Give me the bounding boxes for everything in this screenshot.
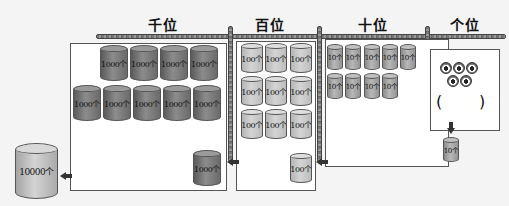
cylinder-hundred: 100个 bbox=[290, 76, 312, 106]
cylinder-ten: 10个 bbox=[327, 73, 343, 99]
ones-ball bbox=[453, 62, 465, 74]
ones-ball bbox=[440, 62, 452, 74]
cylinder-hundred: 100个 bbox=[265, 43, 287, 73]
vertical-rod-hundreds-tens bbox=[317, 26, 322, 162]
cylinder-ten: 10个 bbox=[400, 44, 416, 70]
arrow-left-icon bbox=[316, 158, 322, 166]
label-tens: 十位 bbox=[358, 14, 388, 34]
label-ones: 个位 bbox=[450, 14, 480, 34]
blank-open-paren: ( bbox=[436, 92, 442, 111]
cylinder-hundred: 100个 bbox=[265, 76, 287, 106]
arrow-left-icon bbox=[227, 158, 233, 166]
ones-ball bbox=[466, 62, 478, 74]
cylinder-hundred: 100个 bbox=[290, 109, 312, 139]
cylinder-thousand: 1000个 bbox=[190, 45, 218, 81]
label-hundreds: 百位 bbox=[255, 14, 285, 34]
cylinder-ten: 10个 bbox=[382, 44, 398, 70]
cylinder-ten: 10个 bbox=[327, 44, 343, 70]
vertical-rod-thousands-hundreds bbox=[228, 26, 233, 162]
cylinder-thousand: 1000个 bbox=[100, 45, 128, 81]
ones-ball bbox=[460, 75, 472, 87]
label-thousands: 千位 bbox=[148, 14, 178, 34]
cylinder-thousand-carry: 1000个 bbox=[193, 150, 221, 186]
cylinder-ten: 10个 bbox=[364, 44, 380, 70]
cylinder-ten: 10个 bbox=[345, 73, 361, 99]
cylinder-ten: 10个 bbox=[364, 73, 380, 99]
blank-close-paren: ) bbox=[479, 92, 485, 111]
cylinder-thousand: 1000个 bbox=[73, 85, 101, 121]
cylinder-thousand: 1000个 bbox=[193, 85, 221, 121]
arrow-left-icon bbox=[60, 172, 66, 180]
cylinder-hundred: 100个 bbox=[241, 76, 263, 106]
cylinder-hundred: 100个 bbox=[241, 109, 263, 139]
cylinder-hundred: 100个 bbox=[290, 43, 312, 73]
cylinder-ten: 10个 bbox=[345, 44, 361, 70]
cylinder-thousand: 1000个 bbox=[133, 85, 161, 121]
cylinder-thousand: 1000个 bbox=[160, 45, 188, 81]
cylinder-thousand: 1000个 bbox=[163, 85, 191, 121]
cylinder-hundred-carry: 100个 bbox=[290, 153, 312, 183]
ones-ball bbox=[447, 75, 459, 87]
cylinder-ten-thousand: 10000个 bbox=[15, 143, 58, 199]
cylinder-thousand: 1000个 bbox=[130, 45, 158, 81]
answer-blank[interactable] bbox=[450, 125, 490, 137]
arrow-down-icon bbox=[447, 128, 455, 134]
cylinder-ten-carry: 10个 bbox=[443, 137, 459, 162]
cylinder-thousand: 1000个 bbox=[103, 85, 131, 121]
ones-box bbox=[430, 49, 500, 131]
cylinder-hundred: 100个 bbox=[265, 109, 287, 139]
cylinder-ten: 10个 bbox=[382, 73, 398, 99]
cylinder-hundred: 100个 bbox=[241, 43, 263, 73]
